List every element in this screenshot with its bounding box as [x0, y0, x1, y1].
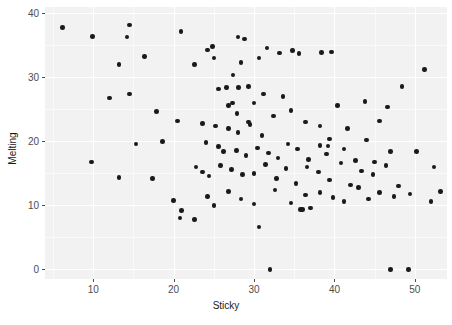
- data-point: [226, 103, 231, 108]
- data-point: [353, 158, 358, 163]
- data-point: [318, 143, 323, 148]
- data-point: [204, 140, 209, 145]
- data-point: [257, 56, 262, 61]
- x-tick-label: 20: [168, 284, 179, 295]
- y-tick-mark: [42, 205, 45, 206]
- gridline-minor-vertical: [53, 7, 54, 279]
- data-point: [306, 157, 311, 162]
- x-tick-label: 30: [248, 284, 259, 295]
- gridline-major-vertical: [93, 7, 94, 279]
- data-point: [142, 54, 147, 59]
- data-point: [255, 146, 260, 151]
- data-point: [414, 149, 419, 154]
- y-tick-mark: [42, 141, 45, 142]
- data-point: [372, 160, 377, 165]
- data-point: [329, 50, 334, 55]
- data-point: [171, 198, 176, 203]
- data-point: [289, 108, 294, 113]
- data-point: [377, 190, 382, 195]
- data-point: [230, 101, 235, 106]
- gridline-major-horizontal: [45, 13, 447, 14]
- data-point: [342, 147, 347, 152]
- data-point: [303, 120, 308, 125]
- data-point: [297, 51, 302, 56]
- data-point: [236, 35, 241, 40]
- data-point: [339, 161, 344, 166]
- x-tick-label: 40: [329, 284, 340, 295]
- data-point: [235, 111, 240, 116]
- data-point: [236, 130, 241, 135]
- data-point: [366, 197, 371, 202]
- data-point: [388, 267, 393, 272]
- data-point: [205, 48, 210, 53]
- data-point: [90, 34, 95, 39]
- data-point: [244, 153, 249, 158]
- x-tick-mark: [415, 279, 416, 282]
- data-point: [134, 142, 139, 147]
- gridline-minor-horizontal: [45, 109, 447, 110]
- data-point: [207, 174, 212, 179]
- data-point: [331, 195, 336, 200]
- data-point: [327, 178, 332, 183]
- data-point: [319, 50, 324, 55]
- data-point: [252, 101, 257, 106]
- data-point: [216, 87, 221, 92]
- data-point: [117, 62, 122, 67]
- data-point: [318, 124, 323, 129]
- data-point: [234, 148, 239, 153]
- data-point: [257, 225, 262, 230]
- data-point: [385, 105, 390, 110]
- y-tick-mark: [42, 77, 45, 78]
- x-tick-mark: [254, 279, 255, 282]
- data-point: [363, 99, 368, 104]
- scatter-plot-figure: 010203040 1020304050 Melting Sticky: [0, 0, 452, 325]
- data-point: [239, 197, 244, 202]
- data-point: [318, 190, 323, 195]
- data-point: [281, 94, 286, 99]
- gridline-minor-horizontal: [45, 45, 447, 46]
- data-point: [200, 121, 205, 126]
- data-point: [268, 267, 273, 272]
- y-axis-title: Melting: [7, 109, 18, 189]
- data-point: [229, 167, 234, 172]
- data-point: [294, 181, 299, 186]
- gridline-major-horizontal: [45, 269, 447, 270]
- data-point: [432, 165, 437, 170]
- data-point: [295, 147, 300, 152]
- data-point: [273, 188, 278, 193]
- data-point: [160, 139, 165, 144]
- data-point: [384, 163, 389, 168]
- data-point: [342, 199, 347, 204]
- data-point: [218, 163, 223, 168]
- y-tick-label: 20: [28, 136, 39, 147]
- data-point: [286, 142, 291, 147]
- data-point: [224, 85, 229, 90]
- data-point: [392, 194, 397, 199]
- data-point: [248, 122, 253, 127]
- data-point: [252, 171, 257, 176]
- data-point: [290, 48, 295, 53]
- data-point: [335, 103, 340, 108]
- gridline-major-vertical: [254, 7, 255, 279]
- data-point: [246, 84, 251, 89]
- data-point: [236, 85, 241, 90]
- data-point: [324, 152, 329, 157]
- data-point: [261, 92, 266, 97]
- data-point: [400, 84, 405, 89]
- x-tick-label: 10: [88, 284, 99, 295]
- data-point: [127, 92, 132, 97]
- y-tick-label: 30: [28, 72, 39, 83]
- data-point: [117, 175, 122, 180]
- data-point: [274, 176, 279, 181]
- data-point: [422, 67, 427, 72]
- data-point: [327, 137, 332, 142]
- y-tick-label: 10: [28, 200, 39, 211]
- gridline-minor-horizontal: [45, 237, 447, 238]
- data-point: [300, 207, 305, 212]
- gridline-major-vertical: [334, 7, 335, 279]
- data-point: [239, 60, 244, 65]
- data-point: [408, 192, 413, 197]
- y-tick-mark: [42, 269, 45, 270]
- data-point: [242, 37, 247, 42]
- data-point: [154, 109, 159, 114]
